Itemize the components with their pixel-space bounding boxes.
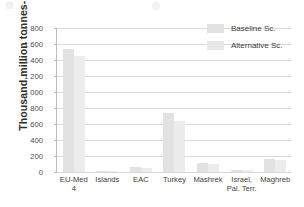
bar-group <box>158 113 192 172</box>
bar-chart: Thousand million tonnes-km 0200400600800… <box>0 0 304 207</box>
y-tick-mark <box>54 44 57 45</box>
gridline <box>57 60 292 61</box>
bar-group <box>57 49 91 172</box>
bar <box>96 171 107 172</box>
y-tick-mark <box>54 172 57 173</box>
bar-group <box>91 171 125 172</box>
scan-artifact-left <box>6 2 13 9</box>
bar <box>163 113 174 172</box>
bar <box>197 163 208 172</box>
x-axis-category-label: Mashrek <box>191 175 225 184</box>
y-tick-label: 400 <box>0 136 43 145</box>
y-tick-label: 1 600 <box>0 40 43 49</box>
gridline <box>57 92 292 93</box>
bar <box>174 121 185 172</box>
bar <box>63 49 74 172</box>
bar <box>242 170 253 172</box>
y-axis-title: Thousand million tonnes-km <box>17 0 29 133</box>
legend-label-alternative: Alternative Sc. <box>231 41 283 50</box>
x-axis-category-label: Maghreb <box>258 175 292 184</box>
bar <box>208 164 219 172</box>
bar-group <box>191 163 225 172</box>
y-tick-label: 800 <box>0 104 43 113</box>
legend-item-alternative: Alternative Sc. <box>207 41 283 50</box>
bar-group <box>225 170 259 172</box>
legend-swatch-alternative-icon <box>207 41 224 50</box>
y-tick-label: 200 <box>0 152 43 161</box>
x-axis-category-label: Turkey <box>158 175 192 184</box>
y-tick-label: 1 800 <box>0 24 43 33</box>
bar <box>107 171 118 172</box>
bar <box>74 56 85 172</box>
legend-item-baseline: Baseline Sc. <box>207 24 283 33</box>
legend-label-baseline: Baseline Sc. <box>231 24 275 33</box>
bar <box>275 160 286 172</box>
gridline <box>57 76 292 77</box>
y-tick-label: 1 400 <box>0 56 43 65</box>
gridline <box>57 172 292 173</box>
bar <box>141 168 152 172</box>
scan-artifact-right <box>152 2 160 10</box>
y-tick-label: 1 200 <box>0 72 43 81</box>
x-axis-category-label: EU-Med 4 <box>57 175 91 193</box>
bar <box>231 170 242 172</box>
bar <box>264 159 275 172</box>
legend: Baseline Sc. Alternative Sc. <box>207 24 283 58</box>
y-tick-label: 0 <box>0 168 43 177</box>
bar <box>130 167 141 172</box>
y-tick-label: 600 <box>0 120 43 129</box>
x-axis-category-label: EAC <box>124 175 158 184</box>
x-axis-category-label: Islands <box>91 175 125 184</box>
gridline <box>57 108 292 109</box>
y-tick-mark <box>54 28 57 29</box>
bar-group <box>124 167 158 172</box>
legend-swatch-baseline-icon <box>207 24 224 33</box>
y-tick-label: 1 000 <box>0 88 43 97</box>
x-axis-category-label: Israel, Pal. Terr. <box>225 175 259 193</box>
bar-group <box>258 159 292 172</box>
